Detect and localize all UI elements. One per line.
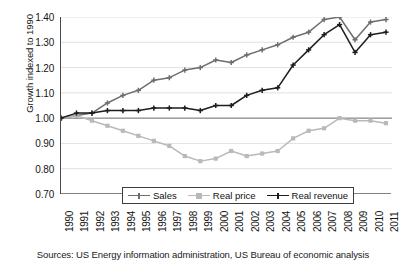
legend-swatch-icon	[128, 191, 150, 200]
x-axis-tick-label: 1999	[203, 211, 214, 232]
marker-real-price	[152, 139, 156, 143]
x-axis-tick-label: 1990	[64, 211, 75, 232]
marker-real-price	[276, 149, 280, 153]
y-axis-tick-label: 1.20	[18, 62, 54, 73]
x-axis-tick-label: 2008	[343, 211, 354, 232]
y-axis-tick-label: 0.90	[18, 138, 54, 149]
plot-svg	[61, 17, 392, 194]
x-axis-tick-label: 2009	[358, 211, 369, 232]
y-axis-tick-label: 1.30	[18, 37, 54, 48]
x-axis-tick-label: 2004	[281, 211, 292, 232]
plot-area	[60, 17, 391, 194]
marker-real-price	[183, 154, 187, 158]
marker-real-price	[260, 151, 264, 155]
x-axis-tick-label: 2010	[374, 211, 385, 232]
marker-real-price	[384, 121, 388, 125]
series-line-real-price	[61, 116, 386, 162]
marker-real-price	[90, 119, 94, 123]
legend-label: Sales	[153, 190, 177, 201]
x-axis-tick-label: 1993	[110, 211, 121, 232]
marker-real-price	[337, 116, 341, 120]
marker-real-price	[353, 119, 357, 123]
marker-real-price	[105, 124, 109, 128]
x-axis-tick-label: 1998	[188, 211, 199, 232]
legend-label: Real price	[213, 190, 256, 201]
x-axis-tick-label: 2007	[327, 211, 338, 232]
y-axis-tick-label: 0.80	[18, 163, 54, 174]
legend-swatch-icon	[188, 191, 210, 200]
marker-real-price	[291, 136, 295, 140]
marker-real-price	[322, 126, 326, 130]
legend-label: Real revenue	[292, 190, 349, 201]
x-axis-tick-label: 2005	[296, 211, 307, 232]
marker-real-price	[214, 157, 218, 161]
y-axis-tick-label: 1.40	[18, 12, 54, 23]
series-line-real-revenue	[61, 25, 386, 119]
chart-figure: Growth indexed to 1990 1.401.301.201.101…	[0, 0, 406, 270]
x-axis-tick-label: 1995	[141, 211, 152, 232]
x-axis-tick-label: 2001	[234, 211, 245, 232]
x-axis-tick-label: 1991	[79, 211, 90, 232]
y-axis-tick-labels: 1.401.301.201.101.000.900.800.70	[20, 0, 54, 270]
marker-real-price	[198, 159, 202, 163]
y-axis-tick-label: 1.10	[18, 87, 54, 98]
marker-real-price	[368, 119, 372, 123]
y-axis-tick-label: 1.00	[18, 113, 54, 124]
legend-swatch-icon	[267, 191, 289, 200]
x-axis-tick-label: 1994	[126, 211, 137, 232]
marker-real-price	[167, 144, 171, 148]
legend-item[interactable]: Real price	[188, 190, 256, 201]
source-note: Sources: US Energy information administr…	[0, 249, 406, 260]
x-axis-tick-label: 2006	[312, 211, 323, 232]
marker-real-price	[307, 129, 311, 133]
x-axis-tick-label: 1997	[172, 211, 183, 232]
x-axis-tick-label: 2003	[265, 211, 276, 232]
y-axis-tick-label: 0.70	[18, 189, 54, 200]
x-axis-tick-label: 2002	[250, 211, 261, 232]
marker-real-price	[136, 134, 140, 138]
chart-legend: SalesReal priceReal revenue	[122, 187, 354, 204]
x-axis-tick-label: 1992	[95, 211, 106, 232]
legend-item[interactable]: Sales	[128, 190, 177, 201]
x-axis-tick-label: 2011	[389, 212, 400, 232]
x-axis-tick-label: 2000	[219, 211, 230, 232]
marker-real-price	[121, 129, 125, 133]
legend-item[interactable]: Real revenue	[267, 190, 349, 201]
marker-real-price	[229, 149, 233, 153]
x-axis-tick-label: 1996	[157, 211, 168, 232]
marker-real-price	[245, 154, 249, 158]
